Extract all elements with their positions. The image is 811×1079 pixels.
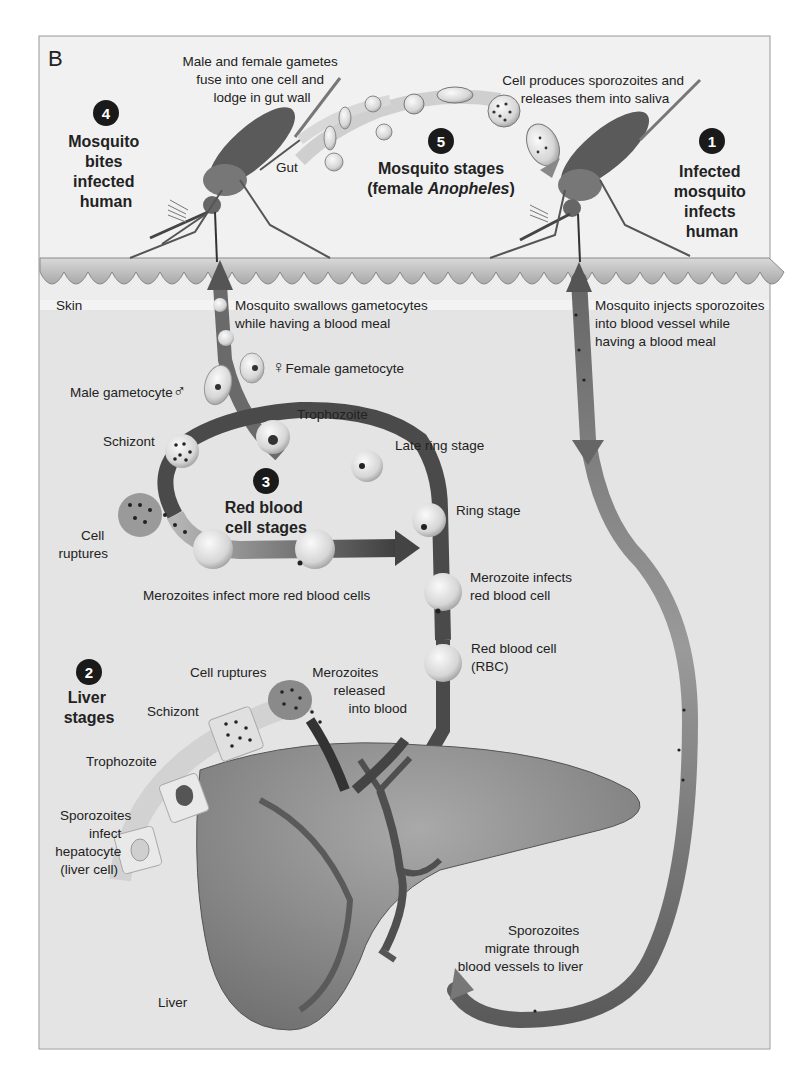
malaria-lifecycle-diagram: B (0, 0, 811, 1079)
merozoites-infect-more-label: Merozoites infect more red blood cells (143, 588, 371, 603)
late-ring-cell (351, 450, 383, 482)
sky-region (40, 37, 769, 259)
rbc-cell (424, 644, 462, 682)
schizont-label: Schizont (103, 434, 155, 449)
late-ring-label: Late ring stage (395, 438, 484, 453)
cell-rupture-rbc (118, 493, 162, 537)
svg-text:2: 2 (85, 664, 93, 681)
svg-text:5: 5 (437, 133, 445, 150)
liver-label: Liver (158, 995, 188, 1010)
ring-stage-cell (412, 503, 446, 537)
liver-cell-ruptures-label: Cell ruptures (190, 665, 267, 680)
liver-schizont-label: Schizont (147, 704, 199, 719)
merozoite-infects-cell (424, 573, 462, 611)
svg-text:4: 4 (102, 105, 111, 122)
trophozoite-label: Trophozoite (297, 407, 368, 422)
skin-label: Skin (56, 298, 82, 313)
ring-stage-label: Ring stage (456, 503, 521, 518)
panel-label: B (48, 46, 63, 71)
svg-text:1: 1 (708, 133, 716, 150)
svg-text:Mosquito stages: Mosquito stages (378, 160, 504, 177)
hepatocyte-rupture (268, 680, 312, 720)
schizont-cell (165, 434, 199, 468)
liver-trophozoite-label: Trophozoite (86, 754, 157, 769)
gut-label: Gut (276, 160, 298, 175)
svg-text:3: 3 (262, 473, 270, 490)
svg-text:(female Anopheles): (female Anopheles) (367, 180, 515, 197)
